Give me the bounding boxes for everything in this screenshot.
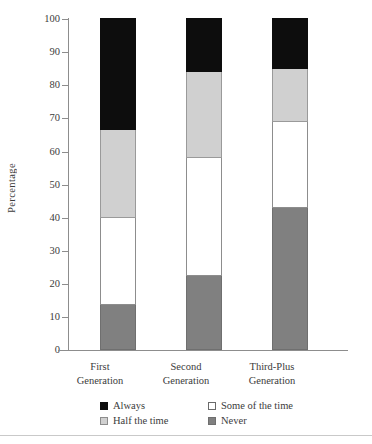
bar-segment-never[interactable]	[186, 275, 222, 350]
y-tick-label: 90	[34, 47, 60, 58]
x-axis-line	[58, 350, 348, 351]
bar-first-generation[interactable]	[100, 19, 136, 350]
legend-item-always[interactable]: Always	[100, 398, 208, 413]
page-bottom-rule	[0, 435, 372, 436]
chart-legend: Always Some of the time Half the time Ne…	[100, 398, 330, 428]
legend-swatch-never-icon	[208, 417, 216, 425]
legend-row: Always Some of the time	[100, 398, 330, 413]
x-category-line: Generation	[217, 374, 327, 388]
legend-item-half-the-time[interactable]: Half the time	[100, 413, 208, 428]
legend-swatch-always-icon	[100, 402, 108, 410]
legend-label: Never	[221, 413, 247, 428]
bar-third-plus-generation[interactable]	[272, 19, 308, 350]
bar-segment-some[interactable]	[272, 121, 308, 208]
bar-segment-always[interactable]	[186, 18, 222, 72]
plot-area	[68, 19, 340, 350]
legend-item-some-of-the-time[interactable]: Some of the time	[208, 398, 293, 413]
bar-segment-some[interactable]	[186, 157, 222, 276]
y-tick-label: 20	[34, 279, 60, 290]
legend-label: Always	[113, 398, 145, 413]
legend-row: Half the time Never	[100, 413, 330, 428]
legend-swatch-half-icon	[100, 417, 108, 425]
y-tick-label: 60	[34, 147, 60, 158]
bar-second-generation[interactable]	[186, 19, 222, 350]
bar-segment-never[interactable]	[100, 304, 136, 350]
y-tick-label: 100	[34, 14, 60, 25]
bar-segment-half[interactable]	[186, 71, 222, 158]
y-tick-label: 0	[34, 345, 60, 356]
legend-label: Half the time	[113, 413, 168, 428]
bar-segment-always[interactable]	[272, 18, 308, 69]
legend-label: Some of the time	[221, 398, 293, 413]
bar-segment-always[interactable]	[100, 18, 136, 130]
x-category-line: Third-Plus	[217, 360, 327, 374]
y-axis-title: Percentage	[6, 128, 24, 248]
bar-segment-some[interactable]	[100, 217, 136, 306]
y-tick-label: 70	[34, 113, 60, 124]
x-category-label-third: Third-Plus Generation	[217, 360, 327, 387]
bar-segment-never[interactable]	[272, 207, 308, 350]
y-tick-label: 30	[34, 246, 60, 257]
y-tick-label: 10	[34, 312, 60, 323]
y-tick-label: 80	[34, 80, 60, 91]
legend-item-never[interactable]: Never	[208, 413, 247, 428]
y-tick-label: 50	[34, 180, 60, 191]
y-tick-label: 40	[34, 213, 60, 224]
bar-segment-half[interactable]	[100, 129, 136, 218]
bar-segment-half[interactable]	[272, 68, 308, 122]
legend-swatch-some-icon	[208, 402, 216, 410]
stacked-bar-chart-figure: Percentage 100 90 80 70 60 50 40 30 20 1…	[0, 0, 372, 444]
